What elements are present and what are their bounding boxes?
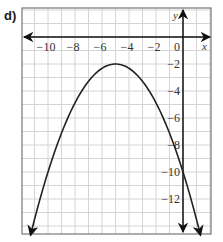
y-axis-label: y <box>172 9 178 21</box>
x-tick-label: −6 <box>94 40 107 54</box>
x-tick-label: −8 <box>67 40 80 54</box>
y-tick-label: −10 <box>161 165 180 179</box>
x-tick-label: 0 <box>174 40 180 54</box>
y-tick-label: −4 <box>167 84 180 98</box>
x-tick-label: −2 <box>148 40 161 54</box>
y-tick-label: −12 <box>161 192 180 206</box>
x-tick-label: −10 <box>37 40 56 54</box>
x-axis-label: x <box>201 40 207 52</box>
y-tick-label: −2 <box>167 57 180 71</box>
x-tick-label: −4 <box>121 40 134 54</box>
parabola-chart: xy−10−8−6−4−20−2−4−6−8−10−12 <box>0 0 223 242</box>
y-tick-label: −6 <box>167 111 180 125</box>
